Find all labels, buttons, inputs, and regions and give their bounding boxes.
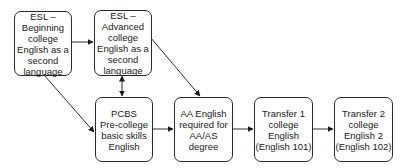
node-label-line: college — [268, 119, 298, 130]
node-label-line: English 2 — [344, 130, 383, 141]
node-esl-advanced: ESL – Advanced college English as a seco… — [94, 10, 152, 76]
node-label-line: second — [28, 55, 59, 66]
node-label-line: college — [108, 32, 138, 43]
node-label-line: ESL – — [30, 11, 56, 22]
node-label-line: required for — [179, 119, 228, 130]
node-label-line: college — [348, 119, 378, 130]
node-label-line: Pre-college — [100, 119, 148, 130]
node-label-line: English — [268, 130, 299, 141]
node-label-line: degree — [189, 141, 219, 152]
node-label-line: ESL – — [110, 10, 136, 21]
node-label-line: PCBS — [111, 108, 137, 119]
node-label-line: college — [28, 33, 58, 44]
node-label-line: English as a — [17, 44, 69, 55]
node-aa-english: AA English required for AA/AS degree — [174, 97, 233, 162]
node-esl-beginning: ESL – Beginning college English as a sec… — [14, 11, 72, 76]
node-label-line: AA/AS — [190, 130, 218, 141]
node-transfer-1: Transfer 1 college English (English 101) — [254, 97, 313, 162]
node-label-line: Advanced — [102, 21, 144, 32]
node-pcbs: PCBS Pre-college basic skills English — [95, 97, 153, 162]
node-transfer-2: Transfer 2 college English 2 (English 10… — [334, 97, 393, 162]
node-label-line: (English 102) — [336, 141, 392, 152]
node-label-line: language — [103, 65, 142, 76]
edge-esl-advanced-to-aa-english — [151, 38, 200, 96]
node-label-line: English as a — [97, 43, 149, 54]
node-label-line: language — [23, 66, 62, 77]
node-label-line: Transfer 1 — [262, 108, 305, 119]
node-label-line: Transfer 2 — [342, 108, 385, 119]
edge-esl-beginning-to-pcbs — [44, 75, 94, 132]
node-label-line: second — [108, 54, 139, 65]
node-label-line: basic skills — [101, 130, 146, 141]
node-label-line: AA English — [181, 108, 227, 119]
node-label-line: Beginning — [22, 22, 64, 33]
node-label-line: English — [108, 141, 139, 152]
node-label-line: (English 101) — [256, 141, 312, 152]
